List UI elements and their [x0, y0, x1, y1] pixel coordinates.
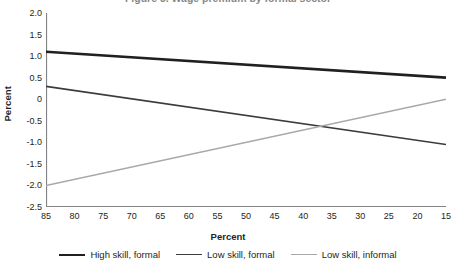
plot-area: [46, 13, 446, 207]
legend-item[interactable]: Low skill, formal: [176, 249, 275, 260]
x-tick-label: 15: [426, 211, 456, 221]
legend-item[interactable]: High skill, formal: [59, 249, 160, 260]
legend-swatch: [291, 254, 317, 255]
chart-legend: High skill, formalLow skill, formalLow s…: [0, 249, 456, 260]
legend-label: Low skill, informal: [322, 249, 397, 260]
series-line: [46, 86, 446, 144]
legend-swatch: [59, 254, 85, 256]
chart-svg: [46, 13, 446, 207]
series-line: [46, 52, 446, 78]
series-line: [46, 99, 446, 185]
x-axis-title: Percent: [0, 231, 456, 242]
legend-item[interactable]: Low skill, informal: [291, 249, 397, 260]
legend-label: Low skill, formal: [207, 249, 275, 260]
chart-figure: Figure 3. Wage premium by formal sector …: [0, 0, 456, 267]
data-series: [46, 52, 446, 186]
legend-label: High skill, formal: [90, 249, 160, 260]
axes: [46, 13, 446, 207]
legend-swatch: [176, 254, 202, 255]
